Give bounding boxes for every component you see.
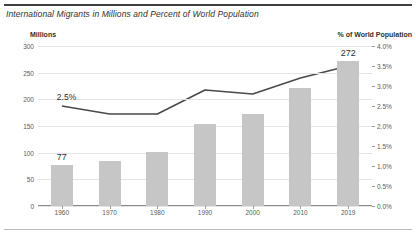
y-axis-tick-mark-right bbox=[372, 46, 375, 47]
top-divider bbox=[4, 4, 412, 6]
gridline bbox=[38, 46, 372, 47]
bar-2010 bbox=[289, 88, 311, 206]
y-axis-tick-right: 0.0% bbox=[377, 203, 407, 210]
bar-value-label-2019: 272 bbox=[341, 48, 356, 58]
y-axis-tick-mark-right bbox=[372, 106, 375, 107]
y-axis-tick-left: 0 bbox=[8, 203, 34, 210]
bar-1990 bbox=[194, 124, 216, 206]
line-value-label-1960: 2.5% bbox=[57, 92, 76, 102]
x-axis-tick-mark bbox=[157, 206, 158, 209]
y-axis-tick-mark-right bbox=[372, 206, 375, 207]
chart-figure: International Migrants in Millions and P… bbox=[0, 0, 416, 238]
y-axis-tick-right: 3.0% bbox=[377, 83, 407, 90]
x-axis-tick-2010: 2010 bbox=[293, 209, 307, 216]
x-axis-tick-mark bbox=[253, 206, 254, 209]
y-axis-tick-right: 0.5% bbox=[377, 183, 407, 190]
gridline bbox=[38, 73, 372, 74]
y-axis-tick-mark-right bbox=[372, 146, 375, 147]
y-axis-tick-right: 2.0% bbox=[377, 123, 407, 130]
x-axis-tick-2000: 2000 bbox=[245, 209, 259, 216]
y-axis-tick-right: 1.0% bbox=[377, 163, 407, 170]
x-axis-tick-1990: 1990 bbox=[198, 209, 212, 216]
bar-2000 bbox=[242, 114, 264, 206]
chart-title: International Migrants in Millions and P… bbox=[6, 9, 259, 19]
x-axis-tick-mark bbox=[110, 206, 111, 209]
bar-1960 bbox=[51, 165, 73, 206]
y-axis-tick-mark-right bbox=[372, 126, 375, 127]
y-axis-tick-left: 300 bbox=[8, 43, 34, 50]
y-axis-tick-mark-right bbox=[372, 166, 375, 167]
x-axis-tick-mark bbox=[205, 206, 206, 209]
y-axis-tick-left: 100 bbox=[8, 149, 34, 156]
y-axis-tick-right: 3.5% bbox=[377, 63, 407, 70]
y-axis-tick-left: 250 bbox=[8, 69, 34, 76]
x-axis-tick-2019: 2019 bbox=[341, 209, 355, 216]
left-axis-title: Millions bbox=[30, 31, 56, 38]
y-axis-tick-left: 50 bbox=[8, 176, 34, 183]
y-axis-tick-left: 200 bbox=[8, 96, 34, 103]
y-axis-tick-right: 2.5% bbox=[377, 103, 407, 110]
plot-area: 0501001502002503000.0%0.5%1.0%1.5%2.0%2.… bbox=[38, 46, 372, 206]
right-axis-title: % of World Population bbox=[337, 31, 412, 38]
bar-1970 bbox=[99, 161, 121, 206]
y-axis-tick-right: 1.5% bbox=[377, 143, 407, 150]
x-axis-tick-mark bbox=[348, 206, 349, 209]
y-axis-tick-left: 150 bbox=[8, 123, 34, 130]
y-axis-tick-mark-right bbox=[372, 186, 375, 187]
bar-2019 bbox=[337, 61, 359, 206]
x-axis-tick-1980: 1980 bbox=[150, 209, 164, 216]
bar-value-label-1960: 77 bbox=[57, 152, 67, 162]
gridline bbox=[38, 99, 372, 100]
y-axis-tick-mark-right bbox=[372, 66, 375, 67]
x-axis-tick-1970: 1970 bbox=[102, 209, 116, 216]
bar-1980 bbox=[146, 152, 168, 206]
y-axis-tick-right: 4.0% bbox=[377, 43, 407, 50]
y-axis-tick-mark-right bbox=[372, 86, 375, 87]
x-axis-tick-1960: 1960 bbox=[55, 209, 69, 216]
bottom-divider bbox=[4, 229, 412, 230]
x-axis-tick-mark bbox=[300, 206, 301, 209]
x-axis-tick-mark bbox=[62, 206, 63, 209]
